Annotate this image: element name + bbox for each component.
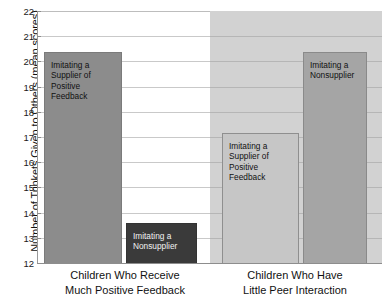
y-axis-tick-labels: 22 21 20 19 18 17 16 15 14 13 12	[3, 0, 34, 300]
bar-label-line: Imitating	[229, 141, 260, 151]
ytick-label-14: 14	[8, 207, 34, 218]
ytick-label-15: 15	[8, 182, 34, 193]
ytick-label-20: 20	[8, 56, 34, 67]
bar-label-group1-nonsupplier: Imitating a Nonsupplier	[133, 231, 192, 252]
bar-group2-nonsupplier[interactable]: Imitating a Nonsupplier	[303, 52, 367, 264]
bar-label-group1-supplier: Imitating a Supplier of Positive Feedbac…	[51, 60, 117, 102]
bar-label-group2-nonsupplier: Imitating a Nonsupplier	[310, 60, 362, 81]
ytick-mark-15	[37, 187, 41, 188]
gridline-21	[38, 36, 210, 37]
ytick-label-21: 21	[8, 31, 34, 42]
ytick-label-12: 12	[8, 258, 34, 269]
ytick-mark-13	[37, 238, 41, 239]
ytick-label-16: 16	[8, 157, 34, 168]
ytick-mark-18	[37, 112, 41, 113]
ytick-mark-12	[37, 263, 41, 264]
x-axis-label-line: Children Who Receive	[30, 268, 220, 283]
ytick-label-19: 19	[8, 81, 34, 92]
bar-label-line: Imitating	[51, 60, 82, 70]
bar-label-line: Imitating	[310, 60, 341, 70]
ytick-mark-19	[37, 87, 41, 88]
ytick-mark-14	[37, 213, 41, 214]
bar-label-line: Feedback	[229, 172, 265, 182]
ytick-label-22: 22	[8, 6, 34, 17]
bar-chart: Number of Trinkets Given to Others (mean…	[0, 0, 382, 300]
bar-group1-supplier[interactable]: Imitating a Supplier of Positive Feedbac…	[44, 52, 122, 264]
x-axis-label-line: Little Peer Interaction	[205, 283, 382, 298]
x-axis-label-group-1: Children Who Receive Much Positive Feedb…	[30, 268, 220, 298]
x-axis-label-line: Children Who Have	[205, 268, 382, 283]
gridline-22	[38, 11, 210, 12]
ytick-mark-16	[37, 162, 41, 163]
ytick-label-13: 13	[8, 232, 34, 243]
bar-label-group2-supplier: Imitating a Supplier of Positive Feedbac…	[229, 141, 294, 183]
bar-label-line: Imitating	[133, 231, 164, 241]
ytick-mark-17	[37, 137, 41, 138]
x-axis-label-group-2: Children Who Have Little Peer Interactio…	[205, 268, 382, 298]
bar-label-line: Feedback	[51, 91, 87, 101]
bar-group2-supplier[interactable]: Imitating a Supplier of Positive Feedbac…	[222, 133, 299, 264]
gridline-21	[210, 36, 382, 37]
x-axis-baseline	[37, 263, 382, 264]
ytick-label-18: 18	[8, 106, 34, 117]
ytick-mark-21	[37, 36, 41, 37]
x-axis-label-line: Much Positive Feedback	[30, 283, 220, 298]
ytick-mark-20	[37, 61, 41, 62]
ytick-label-17: 17	[8, 132, 34, 143]
ytick-mark-22	[37, 11, 41, 12]
bar-group1-nonsupplier[interactable]: Imitating a Nonsupplier	[126, 223, 197, 264]
